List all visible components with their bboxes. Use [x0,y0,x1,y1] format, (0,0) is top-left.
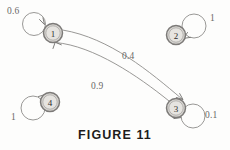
figure-11-diagram: 1 2 3 4 0.6 1 0.1 1 0.4 0.9 FIGURE 11 [0,0,230,150]
weight-label-node-1-self-loop: 0.6 [7,6,19,16]
self-loop-node-1-curve [23,13,46,36]
weight-label-edge-3-to-1: 0.9 [91,81,103,91]
node-3[interactable]: 3 [167,99,186,118]
edge-1-to-3-curve [63,30,183,99]
node-2[interactable]: 2 [167,26,186,45]
node-3-label: 3 [174,104,179,114]
node-2-label: 2 [174,31,179,41]
edge-3-to-1-curve [56,43,170,102]
weight-label-node-2-self-loop: 1 [210,13,215,23]
weight-label-node-3-self-loop: 0.1 [205,110,217,120]
node-4[interactable]: 4 [41,93,60,112]
node-1-label: 1 [51,29,56,39]
weight-label-node-4-self-loop: 1 [11,112,16,122]
node-4-label: 4 [48,98,53,108]
figure-caption: FIGURE 11 [0,128,230,142]
edge-3-to-1 [53,42,169,101]
edge-1-to-3 [63,30,184,100]
weight-label-edge-1-to-3: 0.4 [122,51,134,61]
node-1[interactable]: 1 [44,24,63,43]
self-loop-node-1-arrowhead [40,18,45,25]
self-loop-node-1 [23,13,46,36]
